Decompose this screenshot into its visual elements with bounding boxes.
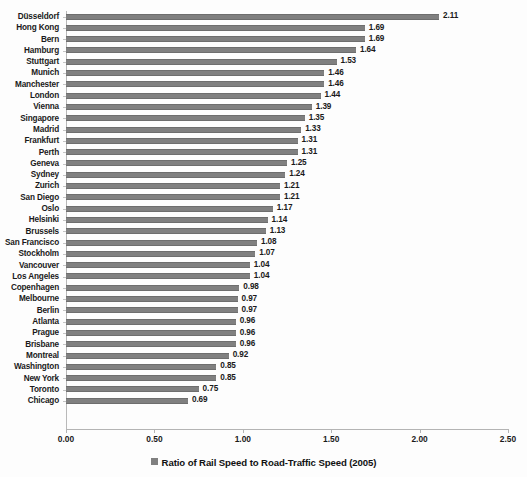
y-axis-tick	[63, 152, 66, 153]
bar-row: 1.31	[66, 135, 508, 146]
bar-track: 0.96	[66, 319, 508, 325]
bar-row: 0.85	[66, 361, 508, 372]
bar-row: 1.35	[66, 113, 508, 124]
bar-value-label: 0.96	[240, 338, 256, 350]
bar-row: 0.92	[66, 350, 508, 361]
bar[interactable]	[66, 104, 312, 110]
y-axis-tick	[63, 243, 66, 244]
bar-value-label: 1.21	[284, 180, 300, 192]
y-axis-tick	[63, 62, 66, 63]
y-axis-tick	[63, 141, 66, 142]
bar-row: 1.07	[66, 248, 508, 259]
bar-track: 1.21	[66, 194, 508, 200]
bar[interactable]	[66, 127, 301, 133]
category-label: Hamburg	[0, 45, 63, 56]
bar[interactable]	[66, 81, 324, 87]
bar-value-label: 1.69	[369, 22, 385, 34]
bar[interactable]	[66, 285, 239, 291]
bar[interactable]	[66, 36, 365, 42]
bar[interactable]	[66, 251, 255, 257]
category-label: Stockholm	[0, 248, 63, 259]
category-label: Manchester	[0, 79, 63, 90]
bar-track: 0.85	[66, 364, 508, 370]
bar[interactable]	[66, 341, 236, 347]
legend: Ratio of Rail Speed to Road-Traffic Spee…	[0, 453, 527, 471]
bar-track: 1.25	[66, 160, 508, 166]
y-axis-tick	[63, 130, 66, 131]
bar[interactable]	[66, 307, 238, 313]
bar-row: 0.75	[66, 384, 508, 395]
bar[interactable]	[66, 14, 439, 20]
x-axis-tick-label: 1.50	[323, 434, 339, 444]
y-axis-tick	[63, 401, 66, 402]
bar[interactable]	[66, 330, 236, 336]
bar[interactable]	[66, 47, 356, 53]
bar[interactable]	[66, 183, 280, 189]
bar-row: 1.39	[66, 101, 508, 112]
bar[interactable]	[66, 375, 216, 381]
bar[interactable]	[66, 160, 287, 166]
bar-value-label: 0.98	[243, 281, 259, 293]
bar-track: 1.08	[66, 240, 508, 246]
category-label: Zurich	[0, 180, 63, 191]
bar-row: 1.13	[66, 226, 508, 237]
bar-value-label: 1.46	[328, 78, 344, 90]
x-axis-tick	[66, 430, 67, 433]
category-label: Oslo	[0, 203, 63, 214]
x-axis-tick-label: 2.50	[500, 434, 516, 444]
bar-value-label: 1.35	[309, 112, 325, 124]
bar-value-label: 1.31	[302, 146, 318, 158]
bar[interactable]	[66, 149, 298, 155]
bar[interactable]	[66, 217, 268, 223]
category-label: Atlanta	[0, 316, 63, 327]
category-label: San Diego	[0, 192, 63, 203]
bar[interactable]	[66, 25, 365, 31]
category-label: Munich	[0, 67, 63, 78]
bar[interactable]	[66, 364, 216, 370]
bar-value-label: 0.97	[242, 293, 258, 305]
bar[interactable]	[66, 296, 238, 302]
category-label: Frankfurt	[0, 135, 63, 146]
bar[interactable]	[66, 59, 337, 65]
bar-track: 1.33	[66, 127, 508, 133]
bar[interactable]	[66, 93, 321, 99]
category-label: Düsseldorf	[0, 11, 63, 22]
bar[interactable]	[66, 319, 236, 325]
bar-row: 1.44	[66, 90, 508, 101]
bar-row: 1.08	[66, 237, 508, 248]
category-label: Geneva	[0, 158, 63, 169]
bar[interactable]	[66, 228, 266, 234]
y-axis-tick	[63, 231, 66, 232]
bar[interactable]	[66, 70, 324, 76]
bar[interactable]	[66, 138, 298, 144]
bar-track: 0.75	[66, 386, 508, 392]
bar[interactable]	[66, 353, 229, 359]
bar[interactable]	[66, 240, 257, 246]
bar-row: 0.96	[66, 316, 508, 327]
bar[interactable]	[66, 115, 305, 121]
bar-track: 1.04	[66, 273, 508, 279]
category-label: Chicago	[0, 395, 63, 406]
bar-value-label: 0.96	[240, 315, 256, 327]
y-axis-tick	[63, 322, 66, 323]
bar[interactable]	[66, 262, 250, 268]
bar[interactable]	[66, 398, 188, 404]
bar[interactable]	[66, 273, 250, 279]
bar-value-label: 1.14	[272, 214, 288, 226]
y-axis-tick	[63, 197, 66, 198]
category-label: Stuttgart	[0, 56, 63, 67]
bar[interactable]	[66, 172, 285, 178]
category-label: Sydney	[0, 169, 63, 180]
bar-value-label: 1.24	[289, 168, 305, 180]
bar[interactable]	[66, 386, 199, 392]
bar[interactable]	[66, 206, 273, 212]
bar-row: 1.69	[66, 34, 508, 45]
legend-label: Ratio of Rail Speed to Road-Traffic Spee…	[162, 457, 377, 468]
x-axis-tick	[154, 430, 155, 433]
bar-track: 0.97	[66, 307, 508, 313]
category-label: Prague	[0, 327, 63, 338]
bar[interactable]	[66, 194, 280, 200]
bar-track: 1.69	[66, 36, 508, 42]
bar-value-label: 1.04	[254, 259, 270, 271]
y-axis-tick	[63, 118, 66, 119]
